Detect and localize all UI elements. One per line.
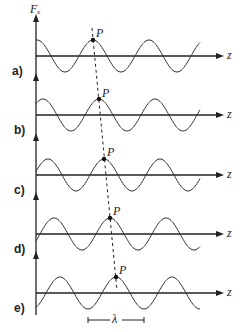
panel-label-a: a) [12,64,23,78]
point-label-c: P [107,145,114,160]
z-axis-arrow-icon [216,231,224,237]
panel-label-d: d) [14,242,25,256]
z-label-d: z [227,226,232,241]
panel-label-e: e) [14,301,25,315]
y-axis-arrow-icon [33,133,39,141]
panel-label-b: b) [14,123,25,137]
y-axis-label: Fₓ [30,2,41,17]
y-axis-arrow-icon [33,251,39,259]
z-label-a: z [227,48,232,63]
z-axis-arrow-icon [216,112,224,118]
z-label-c: z [227,167,232,182]
point-label-b: P [102,86,109,101]
point-label-e: P [119,263,126,278]
z-axis-arrow-icon [216,290,224,296]
wave-diagram [0,0,243,332]
y-axis-arrow-icon [33,192,39,200]
point-label-a: P [96,26,103,41]
z-axis-arrow-icon [216,53,224,59]
y-axis-arrow-icon [33,73,39,81]
z-label-b: z [227,107,232,122]
wavelength-label: λ [112,312,117,327]
panel-label-c: c) [14,183,25,197]
point-label-d: P [113,204,120,219]
z-axis-arrow-icon [216,172,224,178]
point-p-marker [102,157,106,161]
z-label-e: z [227,285,232,300]
